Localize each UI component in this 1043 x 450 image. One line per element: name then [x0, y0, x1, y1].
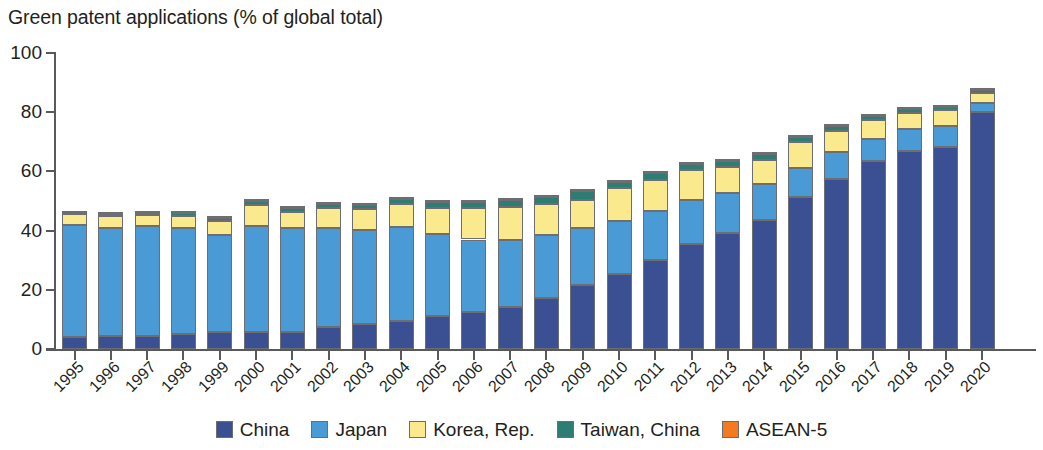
bar-segment-asean-5: [970, 88, 995, 90]
bar-stack: [352, 53, 377, 349]
bar-stack: [207, 53, 232, 349]
bar-segment-japan: [498, 240, 523, 307]
bar-segment-asean-5: [498, 198, 523, 200]
bar-segment-china: [389, 321, 414, 349]
bar-segment-china: [933, 147, 958, 349]
bar-segment-china: [679, 244, 704, 349]
bar-segment-asean-5: [788, 135, 813, 137]
bar-segment-korea-rep: [244, 205, 269, 226]
bar-stack: [679, 53, 704, 349]
bar-stack: [788, 53, 813, 349]
bar-segment-china: [498, 307, 523, 349]
bar-segment-taiwan-china: [933, 107, 958, 111]
bar-segment-china: [171, 334, 196, 349]
bar-stack: [534, 53, 559, 349]
bar-segment-japan: [861, 139, 886, 161]
bar-segment-asean-5: [352, 203, 377, 205]
legend-item-asean-5[interactable]: ASEAN-5: [722, 420, 827, 439]
bar-segment-asean-5: [607, 180, 632, 182]
bar-segment-asean-5: [715, 159, 740, 161]
bar-segment-korea-rep: [570, 200, 595, 228]
bar-segment-china: [280, 332, 305, 349]
y-axis-tick: [46, 111, 55, 113]
legend-label: ASEAN-5: [746, 420, 827, 439]
bar-segment-china: [824, 179, 849, 349]
bar-segment-china: [135, 336, 160, 349]
bar-segment-korea-rep: [135, 215, 160, 226]
bar-segment-korea-rep: [98, 216, 123, 227]
bar-segment-japan: [207, 235, 232, 332]
bar-segment-japan: [679, 200, 704, 245]
bar-segment-taiwan-china: [135, 213, 160, 215]
bar-segment-china: [62, 337, 87, 349]
bar-segment-china: [570, 285, 595, 349]
legend-item-korea-rep[interactable]: Korea, Rep.: [409, 420, 534, 439]
x-axis-label: 2004: [369, 358, 414, 403]
chart-title: Green patent applications (% of global t…: [8, 6, 383, 28]
bar-segment-china: [643, 260, 668, 349]
bar-segment-taiwan-china: [788, 137, 813, 142]
bar-segment-korea-rep: [534, 204, 559, 235]
bar-segment-korea-rep: [861, 120, 886, 139]
x-axis-label: 2020: [949, 358, 994, 403]
bar-stack: [607, 53, 632, 349]
bar-segment-taiwan-china: [171, 213, 196, 215]
x-axis-label: 2016: [804, 358, 849, 403]
bar-segment-asean-5: [207, 216, 232, 218]
bar-segment-japan: [752, 184, 777, 220]
bar-segment-korea-rep: [607, 188, 632, 221]
bar-segment-china: [897, 151, 922, 349]
legend-item-china[interactable]: China: [216, 420, 290, 439]
bar-segment-taiwan-china: [897, 109, 922, 113]
bar-segment-asean-5: [679, 162, 704, 164]
bar-segment-china: [207, 332, 232, 349]
x-axis-label: 1997: [115, 358, 160, 403]
bar-segment-taiwan-china: [280, 208, 305, 212]
bar-segment-japan: [788, 168, 813, 196]
bar-segment-japan: [98, 228, 123, 336]
bar-segment-taiwan-china: [679, 164, 704, 171]
legend-swatch-icon: [557, 421, 574, 438]
bar-segment-korea-rep: [643, 180, 668, 211]
bar-stack: [752, 53, 777, 349]
bar-segment-japan: [425, 234, 450, 315]
x-axis-line: [46, 349, 1036, 351]
bar-segment-korea-rep: [62, 214, 87, 224]
legend-item-japan[interactable]: Japan: [311, 420, 387, 439]
bar-stack: [280, 53, 305, 349]
bar-segment-japan: [643, 211, 668, 260]
bar-segment-japan: [244, 226, 269, 332]
x-axis-label: 2014: [732, 358, 777, 403]
bar-segment-korea-rep: [679, 170, 704, 199]
bar-stack: [425, 53, 450, 349]
x-axis-label: 2013: [695, 358, 740, 403]
bar-segment-china: [316, 327, 341, 349]
x-axis-label: 2005: [405, 358, 450, 403]
bar-stack: [461, 53, 486, 349]
bar-segment-taiwan-china: [389, 199, 414, 204]
x-axis-label: 2002: [296, 358, 341, 403]
legend-swatch-icon: [722, 421, 739, 438]
bar-segment-taiwan-china: [352, 205, 377, 209]
x-axis-label: 2001: [260, 358, 305, 403]
bar-stack: [498, 53, 523, 349]
bar-stack: [316, 53, 341, 349]
bar-segment-japan: [62, 225, 87, 337]
bar-segment-asean-5: [316, 202, 341, 204]
bar-segment-korea-rep: [933, 110, 958, 126]
legend-item-taiwan-china[interactable]: Taiwan, China: [557, 420, 700, 439]
bar-segment-china: [861, 161, 886, 349]
bar-segment-asean-5: [752, 152, 777, 154]
x-axis-label: 2003: [332, 358, 377, 403]
bar-segment-taiwan-china: [244, 201, 269, 205]
bar-segment-japan: [534, 235, 559, 297]
bar-stack: [933, 53, 958, 349]
y-axis-tick: [46, 348, 55, 350]
bar-segment-korea-rep: [389, 204, 414, 228]
bar-stack: [570, 53, 595, 349]
bar-stack: [643, 53, 668, 349]
bar-segment-taiwan-china: [570, 191, 595, 200]
bar-stack: [715, 53, 740, 349]
bar-segment-taiwan-china: [643, 173, 668, 181]
bar-segment-china: [970, 112, 995, 349]
